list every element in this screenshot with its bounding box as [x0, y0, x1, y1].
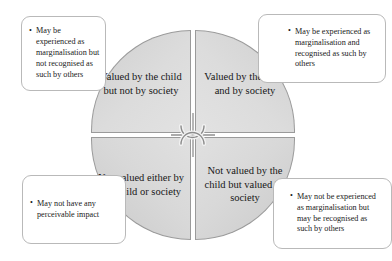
callout-bottom-right-text: May not be experienced as marginalisatio…	[291, 192, 384, 236]
callout-top-right-body: May be experienced as marginalisation an…	[259, 27, 385, 71]
quadrant-top-left-label: Valued by the child but not by society	[92, 70, 190, 97]
callout-top-left-body: May be experienced as marginalisation bu…	[22, 26, 105, 81]
callout-top-left[interactable]: May be experienced as marginalisation bu…	[21, 16, 106, 91]
callout-bottom-left-text: May not have any perceivable impact	[31, 199, 118, 221]
callout-bottom-right-body: May not be experienced as marginalisatio…	[274, 192, 391, 236]
callout-top-left-text: May be experienced as marginalisation bu…	[30, 26, 100, 81]
quadrant-top-left[interactable]: Valued by the child but not by society	[91, 30, 191, 133]
callout-top-right[interactable]: May be experienced as marginalisation an…	[258, 14, 386, 83]
callout-top-right-text: May be experienced as marginalisation an…	[289, 27, 378, 71]
callout-bottom-left[interactable]: May not have any perceivable impact	[22, 175, 126, 244]
callout-bottom-left-body: May not have any perceivable impact	[23, 199, 125, 221]
callout-bottom-right[interactable]: May not be experienced as marginalisatio…	[273, 178, 392, 249]
